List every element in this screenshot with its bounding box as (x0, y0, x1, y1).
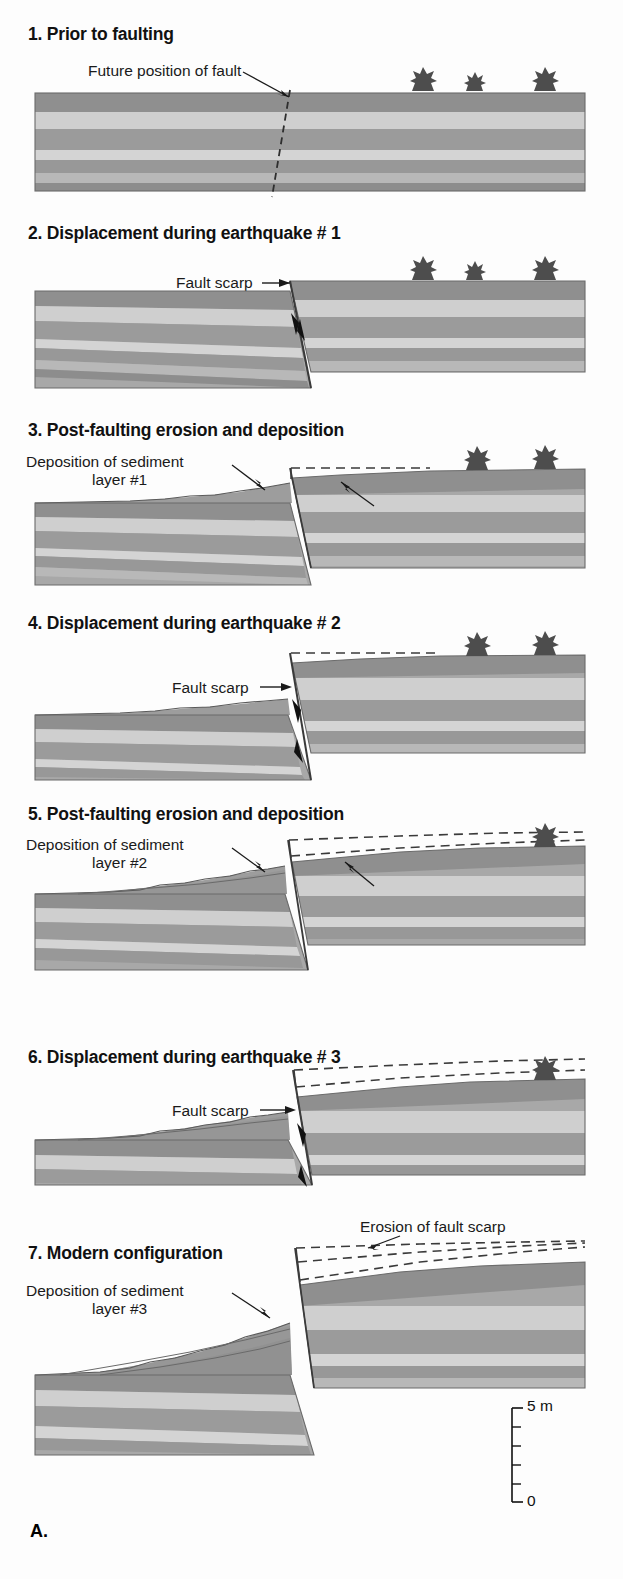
shrub-icon (532, 67, 559, 91)
panel-3: 3. Post-faulting erosion and deposition … (0, 405, 623, 595)
scarp-arrowhead-2 (279, 279, 290, 287)
shrub-icon (464, 72, 486, 91)
panel-5-drawing (0, 790, 623, 975)
stratigraphy-6-right (290, 1075, 595, 1185)
erosion-leader-7 (368, 1236, 400, 1248)
shrub-icon (410, 256, 437, 280)
vertical-scale-bar (512, 1408, 523, 1502)
panel-6-drawing (0, 975, 623, 1190)
shrub-group-5 (532, 823, 559, 847)
erosion-dashed-riser (289, 840, 291, 858)
panel-5: 5. Post-faulting erosion and deposition … (0, 790, 623, 975)
scarp-arrowhead-6 (285, 1106, 296, 1114)
panel-1: 1. Prior to faulting Future position of … (0, 0, 623, 205)
figure-label: A. (30, 1521, 48, 1542)
panel-2-drawing (0, 205, 623, 405)
panel-3-drawing (0, 405, 623, 595)
shrub-icon (532, 256, 559, 280)
panel-1-drawing (0, 0, 623, 205)
panel-7: 7. Modern configuration Deposition of se… (0, 1190, 623, 1520)
shrub-icon (464, 446, 491, 470)
panel-2: 2. Displacement during earthquake # 1 Fa… (0, 205, 623, 405)
stratigraphy-2-right (285, 275, 590, 385)
shrub-icon (532, 445, 559, 469)
shrub-group-2 (410, 256, 559, 280)
shrub-icon (410, 67, 437, 91)
shrub-icon (532, 631, 559, 655)
stratigraphy-4-right (285, 650, 590, 760)
panel-6: 6. Displacement during earthquake # 3 Fa… (0, 975, 623, 1190)
stratigraphy-5-right (285, 840, 590, 950)
shrub-icon (464, 632, 491, 656)
figure-root: 1. Prior to faulting Future position of … (0, 0, 623, 1579)
panel-7-drawing (0, 1190, 623, 1520)
scale-bottom-label: 0 (527, 1492, 536, 1510)
panel-4: 4. Displacement during earthquake # 2 Fa… (0, 595, 623, 790)
shrub-group-3 (464, 445, 559, 470)
stratigraphy-1 (35, 93, 585, 191)
scarp-arrowhead-4 (281, 683, 292, 691)
shrub-group-4 (464, 631, 559, 656)
erosion-dashed-riser (294, 1070, 296, 1089)
scale-top-label: 5 m (527, 1397, 553, 1415)
shrub-icon (532, 823, 559, 847)
panel-4-drawing (0, 595, 623, 790)
stratigraphy-3-right (285, 465, 590, 575)
shrub-icon (464, 261, 486, 280)
motion-arrow-up (292, 699, 301, 723)
shrub-group-1 (410, 67, 559, 91)
